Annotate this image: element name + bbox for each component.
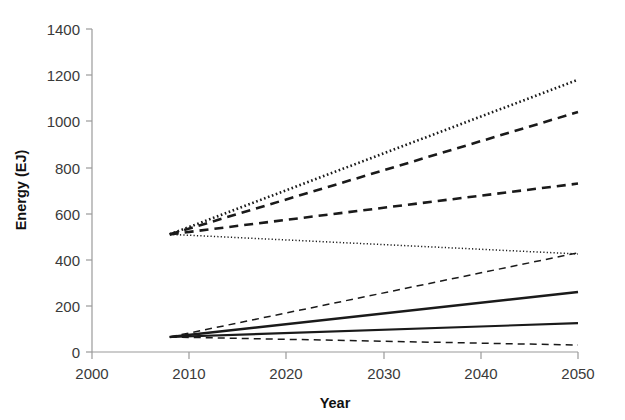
y-axis-title: Energy (EJ) bbox=[13, 150, 29, 231]
y-tick-label: 0 bbox=[72, 344, 80, 361]
y-tick-label: 200 bbox=[55, 298, 80, 315]
x-tick-label: 2000 bbox=[75, 365, 108, 382]
x-tick-label: 2040 bbox=[464, 365, 497, 382]
x-tick-label: 2020 bbox=[269, 365, 302, 382]
y-tick-label: 600 bbox=[55, 206, 80, 223]
y-tick-label: 800 bbox=[55, 160, 80, 177]
x-tick-label: 2050 bbox=[561, 365, 594, 382]
y-tick-label: 1000 bbox=[47, 113, 80, 130]
energy-projection-chart: 1400 1200 1000 800 600 400 200 0 2000 20… bbox=[0, 0, 625, 420]
x-tick-label: 2030 bbox=[367, 365, 400, 382]
y-tick-label: 1200 bbox=[47, 67, 80, 84]
y-tick-label: 400 bbox=[55, 252, 80, 269]
chart-canvas: 1400 1200 1000 800 600 400 200 0 2000 20… bbox=[0, 0, 625, 420]
chart-background bbox=[0, 0, 625, 420]
x-axis-title: Year bbox=[320, 395, 351, 411]
x-tick-label: 2010 bbox=[172, 365, 205, 382]
y-tick-label: 1400 bbox=[47, 21, 80, 38]
